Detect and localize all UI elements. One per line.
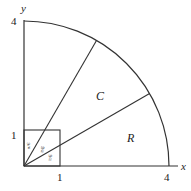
x-tick-4: 4 xyxy=(164,171,170,183)
svg-text:π/6: π/6 xyxy=(47,153,53,161)
region-c-label: C xyxy=(96,89,105,103)
region-r-label: R xyxy=(126,131,135,145)
svg-text:π/6: π/6 xyxy=(26,142,31,149)
y-tick-4: 4 xyxy=(11,15,17,27)
angle-label-1: π/6 xyxy=(26,142,31,149)
angle-label-3: π/6 xyxy=(47,153,53,161)
x-axis-label: x xyxy=(180,160,186,172)
polar-region-diagram: y x 4 1 1 4 C R π/6 π/6 π/6 xyxy=(0,0,191,191)
diagram-canvas: y x 4 1 1 4 C R π/6 π/6 π/6 xyxy=(0,0,191,191)
angle-label-2: π/6 xyxy=(39,145,46,153)
y-axis-label: y xyxy=(20,2,26,14)
svg-text:π/6: π/6 xyxy=(39,145,46,153)
y-tick-1: 1 xyxy=(11,129,17,141)
x-tick-1: 1 xyxy=(57,171,63,183)
